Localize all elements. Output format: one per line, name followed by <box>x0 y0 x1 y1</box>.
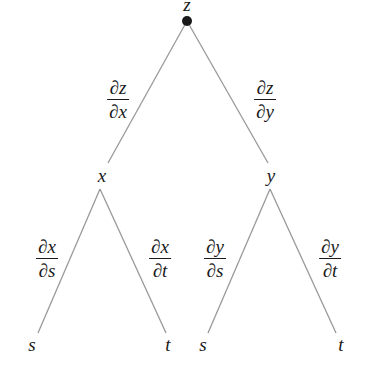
numerator-var: y <box>215 236 223 257</box>
denominator-var: s <box>48 260 55 281</box>
denominator-var: t <box>332 260 337 281</box>
numerator-var: x <box>160 236 168 257</box>
partial-symbol: ∂ <box>321 236 330 257</box>
denominator: ∂s <box>37 259 58 280</box>
label-dy-dt: ∂y ∂t <box>319 237 341 280</box>
partial-symbol: ∂ <box>206 236 215 257</box>
partial-symbol: ∂ <box>153 260 162 281</box>
numerator: ∂z <box>255 78 276 99</box>
leaf-t-right: t <box>338 335 343 354</box>
numerator-var: x <box>47 236 55 257</box>
label-dz-dy: ∂z ∂y <box>254 78 276 121</box>
partial-symbol: ∂ <box>257 77 266 98</box>
partial-symbol: ∂ <box>151 236 160 257</box>
label-dx-ds: ∂x ∂s <box>36 237 58 280</box>
partial-symbol: ∂ <box>39 260 48 281</box>
denominator: ∂s <box>205 259 226 280</box>
root-dot <box>182 16 192 26</box>
denominator: ∂t <box>151 259 170 280</box>
denominator-var: t <box>162 260 167 281</box>
node-y: y <box>267 166 275 185</box>
denominator: ∂t <box>321 259 340 280</box>
tree-edges <box>0 0 366 372</box>
denominator: ∂y <box>254 100 276 121</box>
numerator: ∂y <box>204 237 226 258</box>
node-root-z: z <box>183 0 190 14</box>
partial-symbol: ∂ <box>207 260 216 281</box>
leaf-s-left: s <box>28 335 35 354</box>
partial-symbol: ∂ <box>323 260 332 281</box>
label-dx-dt: ∂x ∂t <box>149 237 171 280</box>
partial-symbol: ∂ <box>110 77 119 98</box>
numerator: ∂z <box>108 78 129 99</box>
leaf-t-left: t <box>165 335 170 354</box>
partial-symbol: ∂ <box>38 236 47 257</box>
numerator: ∂x <box>149 237 171 258</box>
leaf-s-right: s <box>199 335 206 354</box>
numerator-var: y <box>330 236 338 257</box>
denominator: ∂x <box>107 100 129 121</box>
denominator-var: x <box>118 101 126 122</box>
denominator-var: y <box>265 101 273 122</box>
numerator-var: z <box>266 77 273 98</box>
numerator: ∂y <box>319 237 341 258</box>
numerator: ∂x <box>36 237 58 258</box>
label-dz-dx: ∂z ∂x <box>107 78 129 121</box>
numerator-var: z <box>119 77 126 98</box>
label-dy-ds: ∂y ∂s <box>204 237 226 280</box>
node-x: x <box>98 166 106 185</box>
denominator-var: s <box>216 260 223 281</box>
tree-diagram: z x y s t s t ∂z ∂x ∂z ∂y ∂x ∂s ∂x ∂t ∂y… <box>0 0 366 372</box>
partial-symbol: ∂ <box>256 101 265 122</box>
partial-symbol: ∂ <box>109 101 118 122</box>
